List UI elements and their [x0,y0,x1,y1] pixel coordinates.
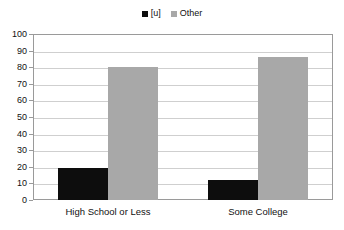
bars-layer [33,34,333,200]
y-tick-label: 30 [17,146,27,155]
y-tick-label: 0 [22,196,27,205]
y-tick-label: 40 [17,129,27,138]
y-tick-label: 50 [17,113,27,122]
x-tick-label: Some College [228,206,288,218]
y-tick-label: 10 [17,179,27,188]
legend-entry-u: [u] [142,8,161,19]
legend-swatch-u-icon [142,11,148,17]
x-axis: High School or LessSome College [33,203,333,225]
y-tick-mark [29,200,33,201]
y-tick-label: 80 [17,63,27,72]
chart-legend: [u] Other [0,8,344,19]
y-tick-label: 70 [17,79,27,88]
legend-label-other: Other [180,8,203,19]
legend-entry-other: Other [171,8,203,19]
legend-label-u: [u] [151,8,161,19]
y-tick-label: 90 [17,46,27,55]
bar-chart: [u] Other 0102030405060708090100 High Sc… [0,0,344,230]
bar-other [108,67,158,200]
y-tick-label: 100 [12,30,27,39]
y-axis: 0102030405060708090100 [0,28,33,206]
bar-other [258,57,308,200]
bar-u [208,180,258,200]
legend-swatch-other-icon [171,11,177,17]
x-tick-label: High School or Less [65,206,150,218]
bar-u [58,168,108,200]
y-tick-label: 20 [17,162,27,171]
y-tick-label: 60 [17,96,27,105]
